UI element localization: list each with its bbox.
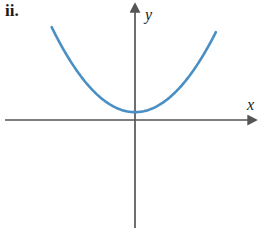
x-axis-label: x [246, 96, 254, 113]
y-axis-label: y [143, 6, 153, 24]
parabola-curve [52, 27, 216, 112]
figure-panel: ii. x y [0, 0, 264, 242]
parabola-plot: x y [0, 0, 264, 242]
